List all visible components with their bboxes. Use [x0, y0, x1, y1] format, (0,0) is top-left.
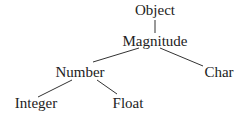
node-float: Float: [113, 95, 145, 111]
node-number: Number: [55, 64, 104, 80]
edge-magnitude-char: [160, 48, 203, 66]
node-object: Object: [135, 2, 176, 18]
class-hierarchy-diagram: Object Magnitude Number Char Integer Flo…: [0, 0, 245, 122]
edge-number-float: [97, 80, 117, 94]
edges: [38, 20, 203, 97]
node-integer: Integer: [15, 95, 57, 111]
nodes: Object Magnitude Number Char Integer Flo…: [15, 2, 234, 111]
node-char: Char: [204, 64, 233, 80]
node-magnitude: Magnitude: [123, 33, 188, 49]
edge-magnitude-number: [93, 48, 139, 62]
